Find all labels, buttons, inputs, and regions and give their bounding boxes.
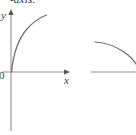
left-plot-curve [12,15,47,72]
textbook-figure: -axis. y x 0 [0,0,136,135]
left-plot-x-axis-label: x [64,75,69,86]
left-plot-y-axis-arrowhead [8,9,13,15]
left-plot-y-axis-label: y [1,10,6,21]
right-plot-curve [95,42,136,64]
left-plot-origin-label: 0 [0,70,5,81]
right-plot-group [91,42,136,72]
plots-canvas [0,0,136,135]
left-plot-group [2,9,70,131]
